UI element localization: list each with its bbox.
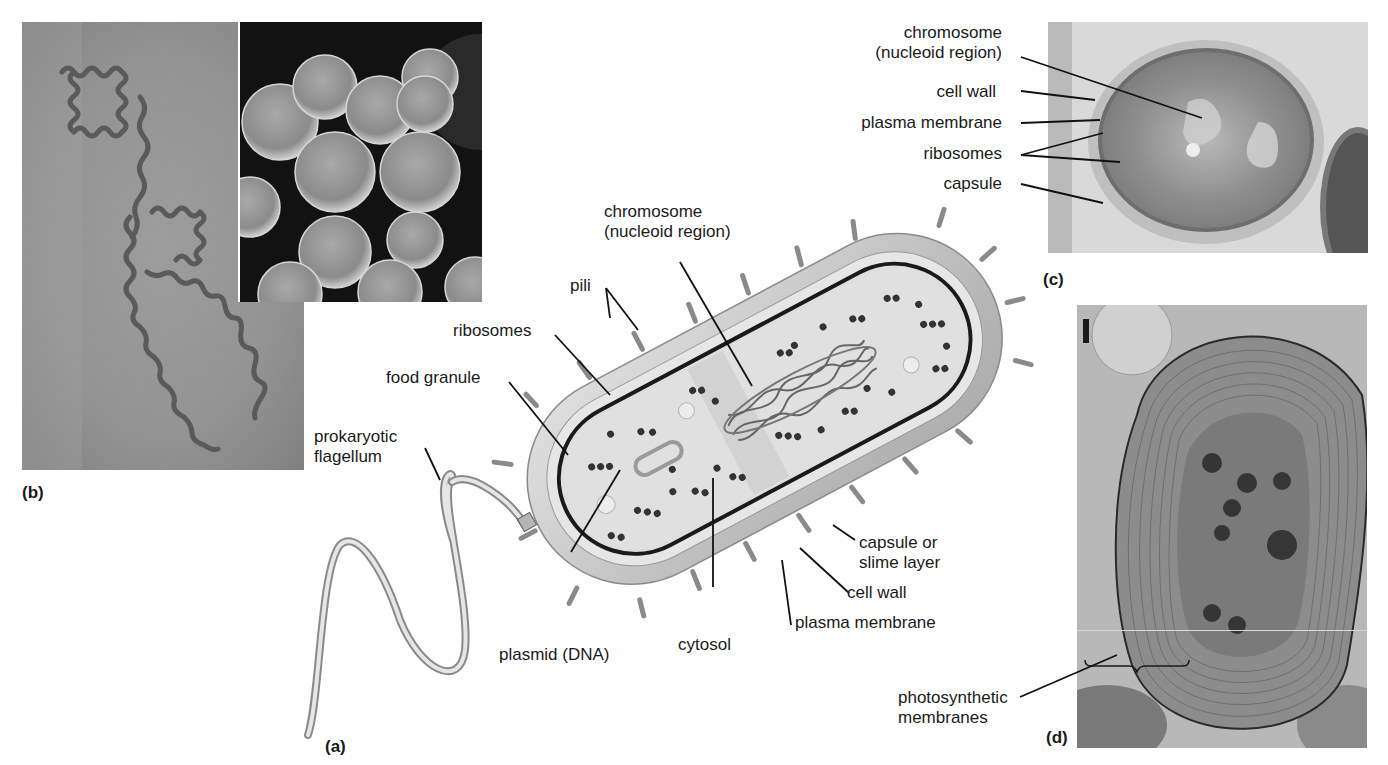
label-a-chromosome: chromosome (nucleoid region) xyxy=(604,202,731,242)
label-text: (nucleoid region) xyxy=(604,222,731,242)
label-text: chromosome xyxy=(604,202,731,222)
label-text: (nucleoid region) xyxy=(834,43,1002,63)
label-a-cytosol: cytosol xyxy=(678,635,731,655)
label-c-capsule: capsule xyxy=(880,174,1002,194)
label-text: membranes xyxy=(898,708,1008,728)
plasmid xyxy=(632,439,685,478)
label-c-plasma-membrane: plasma membrane xyxy=(830,113,1002,133)
label-text: flagellum xyxy=(314,447,397,467)
chromosome xyxy=(715,332,885,450)
cross-section-image xyxy=(1048,22,1368,253)
label-a-prokaryotic-flagellum: prokaryotic flagellum xyxy=(314,427,397,467)
label-c-cell-wall: cell wall xyxy=(890,82,996,102)
cyanobacterium-micrograph xyxy=(1077,305,1367,748)
cyanobacterium-image xyxy=(1077,305,1367,748)
label-a-capsule-or-slime-layer: capsule or slime layer xyxy=(859,533,940,573)
panel-tag-c: (c) xyxy=(1043,270,1064,290)
flagellum xyxy=(308,474,537,735)
label-text: slime layer xyxy=(859,553,940,573)
label-a-ribosomes: ribosomes xyxy=(453,321,531,341)
panel-tag-d: (d) xyxy=(1046,728,1068,748)
label-a-food-granule: food granule xyxy=(386,368,481,388)
panel-tag-b: (b) xyxy=(22,483,44,503)
label-text: capsule or xyxy=(859,533,940,553)
panel-tag-a: (a) xyxy=(325,737,346,757)
label-a-pili: pili xyxy=(570,276,591,296)
cross-section-micrograph xyxy=(1048,22,1368,253)
label-c-chromosome: chromosome (nucleoid region) xyxy=(834,23,1002,63)
leader-lines-a xyxy=(425,262,855,625)
label-text: prokaryotic xyxy=(314,427,397,447)
label-c-ribosomes: ribosomes xyxy=(880,144,1002,164)
label-d-photosynthetic-membranes: photosynthetic membranes xyxy=(898,688,1008,728)
cocci-image xyxy=(240,22,482,302)
cocci-micrograph xyxy=(238,22,482,302)
label-text: chromosome xyxy=(834,23,1002,43)
capsule-layer xyxy=(461,164,1072,651)
label-a-plasma-membrane: plasma membrane xyxy=(795,613,936,633)
scale-bar xyxy=(1083,319,1089,343)
label-text: photosynthetic xyxy=(898,688,1008,708)
label-a-cell-wall: cell wall xyxy=(847,583,907,603)
label-a-plasmid: plasmid (DNA) xyxy=(499,645,610,665)
